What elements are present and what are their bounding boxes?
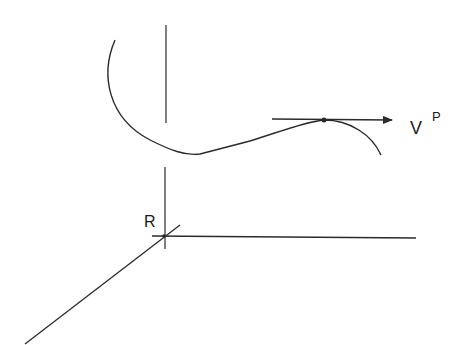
diagram-canvas: R V P: [0, 0, 471, 345]
vector-label: V: [410, 118, 422, 138]
horizontal-axis: [152, 236, 416, 238]
vertical-axis: [165, 25, 166, 249]
origin-point: [162, 234, 166, 238]
tangent-velocity-arrow: [272, 119, 392, 120]
trajectory-curve: [108, 40, 381, 155]
origin-label: R: [144, 213, 156, 230]
diagonal-axis: [25, 225, 180, 344]
point-P: [322, 118, 327, 123]
vector-superscript: P: [432, 109, 441, 124]
